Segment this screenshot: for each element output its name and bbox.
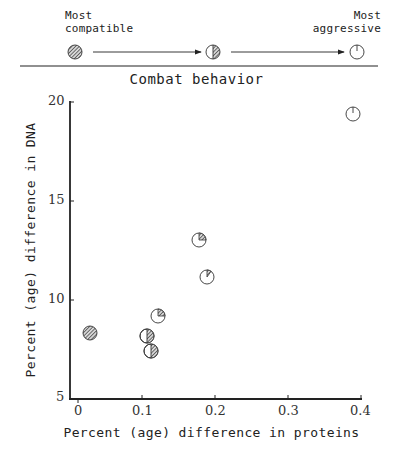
legend-symbol-compatible-icon [68, 45, 82, 59]
data-point-4 [151, 309, 165, 323]
y-tick-label: 5 [56, 389, 64, 404]
y-tick-label: 20 [48, 93, 65, 108]
legend-symbol-intermediate-icon [206, 45, 220, 59]
legend-symbol-aggressive-icon [350, 45, 364, 59]
legend-title: Combat behavior [0, 71, 393, 87]
data-point-7 [346, 107, 360, 121]
y-tick-label: 10 [48, 291, 65, 306]
data-point-5 [192, 233, 206, 247]
y-tick-label: 15 [48, 192, 65, 207]
x-tick-label: 0.3 [278, 403, 299, 418]
x-tick-label: 0 [74, 403, 82, 418]
y-axis-label: Percent (age) difference in DNA [23, 122, 38, 377]
x-axis [69, 395, 362, 403]
data-point-3 [144, 344, 158, 358]
data-point-6 [200, 270, 214, 284]
x-tick-label: 0.1 [132, 403, 153, 418]
y-axis [70, 101, 74, 399]
x-axis-label: Percent (age) difference in proteins [0, 425, 393, 440]
x-tick-label: 0.4 [350, 403, 371, 418]
data-point-2 [140, 329, 154, 343]
x-tick-label: 0.2 [205, 403, 226, 418]
data-point-1 [83, 326, 97, 340]
